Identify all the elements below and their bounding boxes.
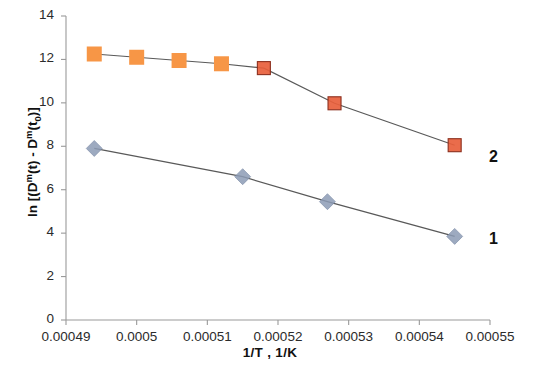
x-axis-title: 1/T , 1/K <box>0 345 540 360</box>
y-axis-title-prefix: ln [(D <box>25 183 40 218</box>
y-axis-title-sub1: 0 <box>32 116 43 121</box>
data-point-marker <box>447 228 463 244</box>
data-point-marker <box>257 62 270 75</box>
y-axis-title-sup2: m <box>23 130 34 138</box>
series-label-1: 1 <box>489 230 498 248</box>
data-point-marker <box>214 56 229 71</box>
data-point-marker <box>129 50 144 65</box>
data-point-marker <box>235 169 251 185</box>
y-axis-tick-label: 14 <box>14 7 54 22</box>
y-axis-title-sup1: m <box>23 174 34 182</box>
x-axis-tick-label: 0.00055 <box>450 329 530 344</box>
data-point-marker <box>319 194 335 210</box>
x-axis-tick-label: 0.00049 <box>26 329 106 344</box>
x-axis-tick-label: 0.00053 <box>309 329 389 344</box>
y-axis-title-mid2: (t <box>25 121 40 130</box>
data-point-marker <box>448 139 461 152</box>
x-axis-tick-label: 0.00054 <box>379 329 459 344</box>
data-point-marker <box>86 140 102 156</box>
chart-axes <box>61 16 490 325</box>
series-line-1 <box>94 148 454 236</box>
data-point-marker <box>328 97 341 110</box>
y-axis-tick-label: 0 <box>14 311 54 326</box>
x-axis-tick-label: 0.00051 <box>167 329 247 344</box>
data-point-marker <box>87 47 102 62</box>
y-axis-title-mid1: (t) - D <box>25 139 40 174</box>
x-axis-tick-label: 0.00052 <box>238 329 318 344</box>
data-point-marker <box>172 53 187 68</box>
chart-plot-area <box>0 0 540 371</box>
chart-figure: 024681012140.000490.00050.000510.000520.… <box>0 0 540 371</box>
series-line-2 <box>94 54 454 145</box>
chart-series-layer <box>86 47 462 245</box>
y-axis-title: ln [(Dm(t) - Dm(t0)] <box>23 27 43 297</box>
chart-series-1 <box>86 140 462 244</box>
x-axis-tick-label: 0.0005 <box>97 329 177 344</box>
y-axis-title-suffix: )] <box>25 107 40 116</box>
series-label-2: 2 <box>489 148 498 166</box>
chart-series-2 <box>87 47 461 152</box>
